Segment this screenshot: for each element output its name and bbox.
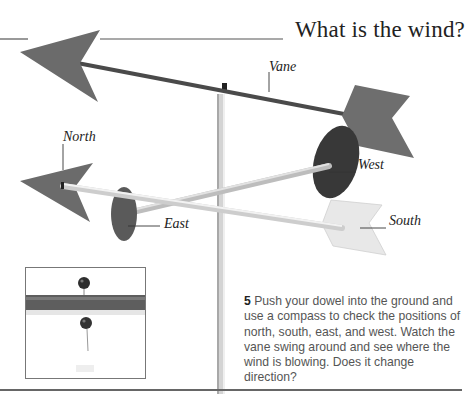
south-label: South xyxy=(389,213,421,229)
step-caption: 5 Push your dowel into the ground and us… xyxy=(244,294,469,386)
inset-photo xyxy=(25,267,146,379)
inset-pin-top xyxy=(78,277,90,289)
vane-label: Vane xyxy=(269,59,296,75)
north-south-rod xyxy=(63,186,342,228)
step-text: Push your dowel into the ground and use … xyxy=(244,294,460,384)
page-title: What is the wind? xyxy=(295,17,465,43)
east-west-rod xyxy=(124,166,329,214)
book-page: What is the wind? Vane North West East S… xyxy=(0,0,473,399)
north-label: North xyxy=(63,129,96,145)
north-arrowhead xyxy=(20,163,93,222)
bottom-rule xyxy=(0,389,462,391)
inset-pin-bottom xyxy=(80,317,92,329)
east-label: East xyxy=(164,216,189,232)
step-number: 5 xyxy=(244,294,251,308)
west-label: West xyxy=(358,157,384,173)
